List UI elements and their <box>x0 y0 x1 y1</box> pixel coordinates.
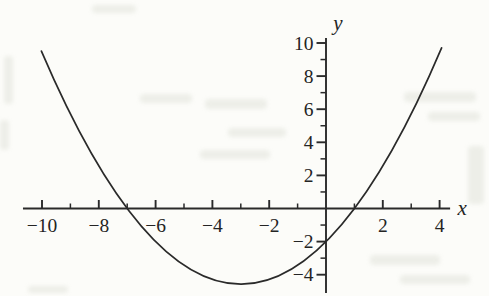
y-axis-ticks <box>317 43 327 275</box>
y-tick-label: 8 <box>304 66 314 87</box>
y-tick-label: 2 <box>304 165 314 186</box>
x-tick-label: 4 <box>435 215 445 236</box>
x-axis-tick-labels: −10−8−6−4−224 <box>27 215 445 236</box>
y-tick-label: 4 <box>304 132 314 153</box>
parabola-curve <box>41 48 441 284</box>
x-axis-label: x <box>456 196 467 220</box>
y-axis-tick-labels: 108642−2−4 <box>293 33 314 286</box>
scanned-figure-page: −10−8−6−4−224 108642−2−4 x y <box>0 0 489 296</box>
y-tick-label: 6 <box>304 99 314 120</box>
y-tick-label: −4 <box>293 264 314 285</box>
y-tick-label: 10 <box>294 33 314 54</box>
y-tick-label: −2 <box>293 231 314 252</box>
x-axis-ticks <box>42 200 440 209</box>
x-tick-label: −6 <box>145 215 166 236</box>
x-tick-label: −2 <box>259 215 280 236</box>
x-tick-label: −10 <box>27 215 58 236</box>
x-tick-label: −4 <box>202 215 223 236</box>
x-tick-label: −8 <box>88 215 109 236</box>
axes <box>23 38 450 293</box>
parabola-graph: −10−8−6−4−224 108642−2−4 x y <box>0 0 489 296</box>
y-axis-label: y <box>331 11 343 35</box>
x-tick-label: 2 <box>378 215 388 236</box>
